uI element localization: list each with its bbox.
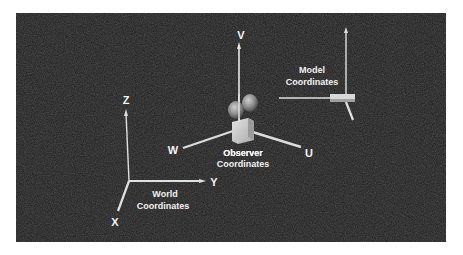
model-caption-line2: Coordinates: [286, 77, 339, 87]
photo-frame: [16, 13, 446, 242]
coordinate-systems-diagram: V W U Observer Observer Coordinates Mode…: [0, 0, 463, 255]
world-x-label: X: [111, 216, 119, 228]
observer-caption-line1-crisp: Observer: [223, 148, 263, 158]
world-y-label: Y: [210, 176, 218, 188]
world-caption-line1: World: [152, 189, 177, 199]
world-z-label: Z: [123, 94, 130, 106]
observer-u-label: U: [305, 147, 313, 159]
world-caption-line2: Coordinates: [137, 201, 190, 211]
observer-caption-line2: Coordinates: [217, 159, 270, 169]
model-caption-line1: Model: [299, 65, 325, 75]
observer-v-label: V: [237, 29, 245, 41]
observer-w-label: W: [168, 144, 179, 156]
